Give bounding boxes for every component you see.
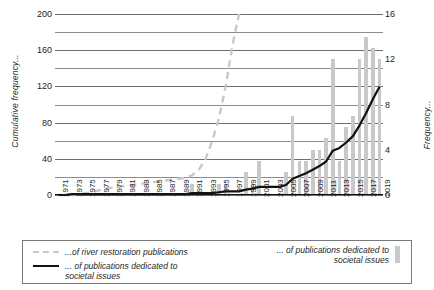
bar-swatch-icon (395, 246, 400, 263)
chart-legend: ...of river restoration publications ...… (22, 240, 412, 284)
y-axis-right-tick-label: 8 (385, 100, 390, 110)
x-axis-tick-label: 1985 (155, 179, 164, 197)
x-axis-ticks: 1971197319751977197919811983198519871989… (55, 197, 383, 237)
dashed-line-swatch-icon (33, 251, 59, 253)
dashed-line-river-restoration (58, 14, 239, 195)
x-axis-tick-label: 1977 (102, 179, 111, 197)
x-axis-tick-label: 2007 (302, 179, 311, 197)
x-axis-tick-label: 1997 (235, 179, 244, 197)
x-axis-tick-label: 2015 (356, 179, 365, 197)
y-axis-left-tick-label: 40 (16, 154, 52, 164)
legend-label-societal-bars: ... of publications dedicated to societa… (245, 245, 389, 265)
x-axis-tick-label: 1987 (168, 179, 177, 197)
x-axis-tick-label: 1979 (115, 179, 124, 197)
y-axis-left-tick-label: 80 (16, 118, 52, 128)
x-axis-tick-label: 1995 (222, 179, 231, 197)
line-series (55, 14, 383, 195)
y-axis-left-tick-label: 120 (16, 81, 52, 91)
x-axis-tick-label: 1975 (88, 179, 97, 197)
legend-item-societal-line: ... of publications dedicated to societa… (33, 261, 177, 281)
x-axis-tick-label: 1971 (61, 179, 70, 197)
x-axis-tick-label: 2009 (316, 179, 325, 197)
x-axis-tick-label: 1999 (249, 179, 258, 197)
y-axis-right-tick-label: 4 (385, 145, 390, 155)
x-axis-tick-label: 1991 (195, 179, 204, 197)
y-axis-right-tick-label: 12 (385, 54, 395, 64)
x-axis-tick-label: 2013 (342, 179, 351, 197)
x-axis-tick-label: 2019 (383, 179, 392, 197)
y-axis-right-title: Frequency... (422, 65, 432, 185)
x-axis-tick-label: 2003 (276, 179, 285, 197)
y-axis-left-tick-label: 0 (16, 190, 52, 200)
legend-item-societal-bars: ... of publications dedicated to societa… (245, 245, 400, 265)
y-axis-left-tick-label: 200 (16, 9, 52, 19)
y-axis-left-tick-label: 160 (16, 45, 52, 55)
x-axis-tick-label: 1989 (182, 179, 191, 197)
legend-item-river-restoration: ...of river restoration publications (33, 247, 188, 257)
legend-label-river-restoration: ...of river restoration publications (65, 247, 188, 257)
chart-figure: Cumulative frequency... Frequency... 040… (0, 0, 434, 290)
x-axis-tick-label: 1973 (75, 179, 84, 197)
x-axis-tick-label: 2011 (329, 180, 338, 197)
x-axis-tick-label: 2005 (289, 179, 298, 197)
x-axis-tick-label: 1981 (128, 179, 137, 197)
y-axis-right-tick-label: 16 (385, 9, 395, 19)
solid-line-swatch-icon (33, 265, 59, 267)
x-axis-tick-label: 1993 (209, 179, 218, 197)
x-axis-tick-label: 1983 (142, 179, 151, 197)
plot-area (55, 14, 383, 195)
x-axis-tick-label: 2001 (262, 179, 271, 197)
legend-label-societal-line: ... of publications dedicated to societa… (65, 261, 177, 281)
x-axis-tick-label: 2017 (369, 179, 378, 197)
